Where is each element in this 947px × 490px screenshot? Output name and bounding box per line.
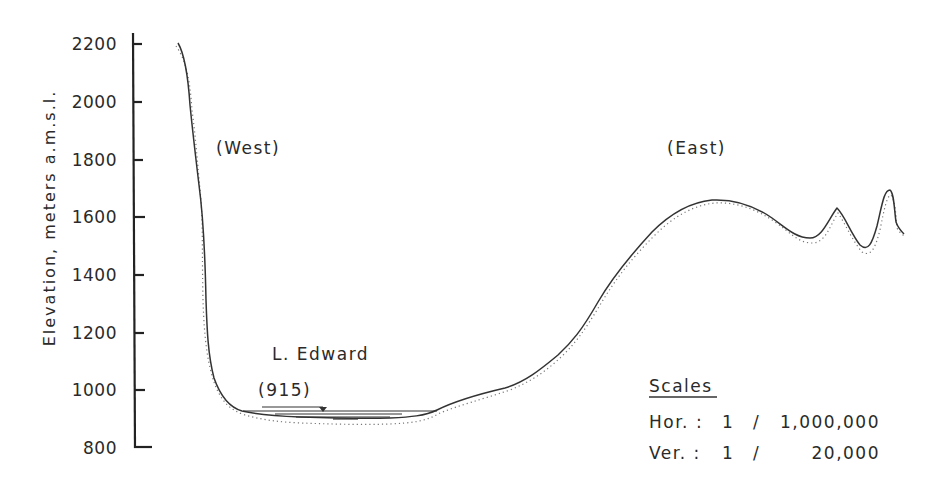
y-tick-label: 1400 — [72, 265, 117, 285]
east-label: (East) — [667, 138, 726, 158]
lake-level-label: (915) — [258, 380, 311, 400]
vertical-scale-separator: / — [753, 443, 760, 463]
horizontal-scale-numerator: 1 — [722, 412, 734, 432]
y-tick-label: 800 — [83, 438, 117, 458]
elevation-profile-chart: 2200 2000 1800 1600 1400 1200 1000 800 E… — [0, 0, 947, 490]
vertical-scale-label: Ver. : — [649, 443, 701, 463]
scales-legend: Scales Hor. : 1 / 1,000,000 Ver. : 1 / 2… — [649, 376, 880, 463]
y-tick-label: 2000 — [72, 92, 117, 112]
vertical-scale-numerator: 1 — [722, 443, 734, 463]
y-tick-label: 2200 — [72, 34, 117, 54]
profile-dotted-line — [176, 46, 904, 424]
scales-title: Scales — [649, 376, 713, 396]
y-axis: 2200 2000 1800 1600 1400 1200 1000 800 E… — [40, 33, 152, 458]
y-tick-label: 1000 — [72, 380, 117, 400]
horizontal-scale-label: Hor. : — [649, 412, 703, 432]
west-label: (West) — [216, 138, 280, 158]
y-tick-label: 1600 — [72, 207, 117, 227]
vertical-scale-denominator: 20,000 — [812, 443, 880, 463]
horizontal-scale-separator: / — [753, 412, 760, 432]
y-tick-label: 1200 — [72, 323, 117, 343]
horizontal-scale-denominator: 1,000,000 — [780, 412, 880, 432]
y-axis-label: Elevation, meters a.m.s.l. — [40, 90, 59, 347]
lake-name-label: L. Edward — [272, 344, 369, 364]
y-tick-label: 1800 — [72, 150, 117, 170]
y-axis-line — [133, 33, 135, 448]
